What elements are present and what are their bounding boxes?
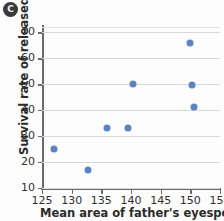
y-tick-label: 20 bbox=[0, 155, 35, 168]
x-tick-label: 145 bbox=[146, 194, 176, 207]
plot-area bbox=[42, 27, 220, 188]
x-axis-title: Mean area of father's eyespot (mm²) bbox=[40, 206, 224, 220]
data-point bbox=[189, 81, 196, 88]
y-tick-label: 50 bbox=[0, 77, 35, 90]
y-tick-label: 60 bbox=[0, 51, 35, 64]
panel-badge: C bbox=[3, 2, 18, 17]
gridline bbox=[42, 136, 220, 137]
scatter-plot-figure: C Survival rate of released chicks (%) M… bbox=[0, 0, 224, 221]
x-tick-label: 125 bbox=[27, 194, 57, 207]
x-tick-label: 135 bbox=[86, 194, 116, 207]
data-point bbox=[84, 167, 91, 174]
x-tick-label: 155 bbox=[205, 194, 224, 207]
y-tick-label: 70 bbox=[0, 25, 35, 38]
data-point bbox=[125, 125, 132, 132]
gridline bbox=[42, 27, 220, 28]
data-point bbox=[190, 103, 197, 110]
x-tick-label: 150 bbox=[175, 194, 205, 207]
gridline bbox=[42, 162, 220, 163]
gridline bbox=[42, 188, 220, 189]
data-point bbox=[129, 81, 136, 88]
data-point bbox=[104, 125, 111, 132]
y-tick-label: 30 bbox=[0, 129, 35, 142]
data-point bbox=[187, 39, 194, 46]
gridline bbox=[42, 32, 220, 33]
x-tick-label: 140 bbox=[116, 194, 146, 207]
data-point bbox=[50, 146, 57, 153]
y-tick-label: 40 bbox=[0, 103, 35, 116]
y-tick-label: 10 bbox=[0, 181, 35, 194]
gridline bbox=[42, 58, 220, 59]
x-tick-label: 130 bbox=[57, 194, 87, 207]
